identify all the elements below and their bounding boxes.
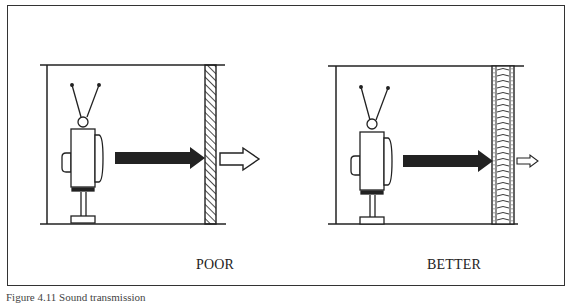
panel-label-poor: POOR [196, 257, 234, 273]
television-icon [62, 84, 103, 223]
incident-sound-arrow-icon [403, 150, 493, 172]
thin-wall-icon [205, 65, 216, 224]
transmitted-sound-arrow-icon [220, 148, 259, 170]
incident-sound-arrow-icon [115, 147, 205, 169]
insulated-wall-icon [492, 66, 514, 224]
room-outline [40, 65, 226, 224]
panel-better [328, 66, 538, 224]
panel-poor [40, 65, 259, 224]
transmitted-sound-arrow-icon [517, 155, 538, 167]
panel-label-better: BETTER [427, 257, 481, 273]
figure-caption: Figure 4.11 Sound transmission [6, 291, 146, 303]
television-icon [351, 86, 392, 224]
